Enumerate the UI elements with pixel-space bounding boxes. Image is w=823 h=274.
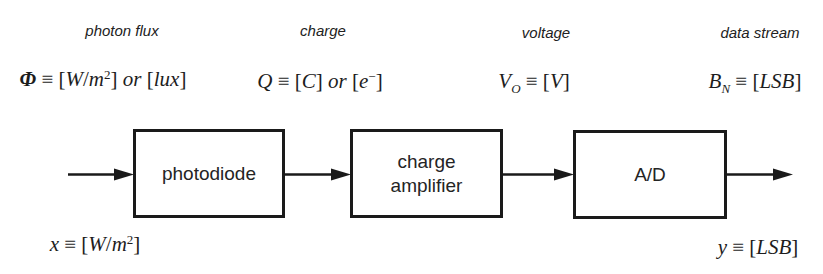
- block-photodiode-label: photodiode: [162, 162, 256, 186]
- signal-label-voltage: voltage: [522, 24, 570, 41]
- formula-data-stream-units: BN ≡ [LSB]: [709, 69, 802, 94]
- block-photodiode: photodiode: [133, 129, 285, 218]
- block-charge-amplifier-label: charge amplifier: [391, 150, 463, 198]
- block-adc: A/D: [573, 130, 727, 219]
- formula-charge-units: Q ≡ [C] or [e−]: [257, 69, 382, 94]
- formula-output-y: y ≡ [LSB]: [718, 235, 799, 260]
- amplifier-to-adc-arrow: [503, 169, 574, 181]
- input-arrow: [68, 169, 134, 181]
- block-adc-label: A/D: [634, 163, 666, 187]
- signal-label-photon-flux: photon flux: [85, 22, 158, 39]
- formula-voltage-units: VO ≡ [V]: [498, 69, 569, 94]
- formula-input-x: x ≡ [W/m2]: [50, 232, 141, 257]
- signal-label-data-stream: data stream: [720, 24, 799, 41]
- signal-label-charge: charge: [300, 22, 346, 39]
- photodiode-to-amplifier-arrow: [285, 169, 351, 181]
- output-arrow: [727, 169, 793, 181]
- block-diagram: photon flux charge voltage data stream Φ…: [0, 0, 823, 274]
- formula-photon-flux-units: Φ ≡ [W/m2] or [lux]: [20, 67, 187, 92]
- block-charge-amplifier: charge amplifier: [350, 129, 503, 218]
